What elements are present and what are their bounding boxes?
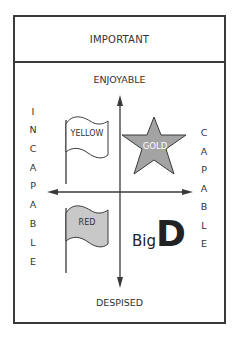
yellow-flag-icon [66,117,108,184]
arrow-left-icon [47,189,58,195]
big-d-large-text: D [156,213,186,254]
axis-left-letter: C [27,143,39,154]
axis-left-letter: E [27,256,39,267]
axis-left-letter: N [27,124,39,135]
axis-top-label: ENJOYABLE [13,74,226,85]
axis-right-letter: A [198,146,210,157]
gold-star-label: GOLD [128,141,182,151]
yellow-flag-label: YELLOW [66,129,108,138]
axis-right-letter: L [198,220,210,231]
arrow-up-icon [117,95,123,106]
axis-left-letter: I [27,106,39,117]
axis-right-letter: C [198,127,210,138]
axis-bottom-label: DESPISED [13,297,226,308]
axis-right-letter: A [198,183,210,194]
red-flag-label: RED [66,218,108,227]
axis-left-letter: L [27,237,39,248]
big-d-label: BigD [132,216,186,252]
axis-left-letter: A [27,162,39,173]
axis-right-letter: P [198,164,210,175]
axis-left-letter: B [27,218,39,229]
red-flag-icon [66,206,108,273]
axis-right-letter: B [198,201,210,212]
axis-left-letter: P [27,180,39,191]
axis-right-letter: E [198,238,210,249]
big-d-small-text: Big [132,232,156,250]
axis-left-letter: A [27,199,39,210]
arrow-down-icon [117,277,123,288]
arrow-right-icon [182,189,193,195]
